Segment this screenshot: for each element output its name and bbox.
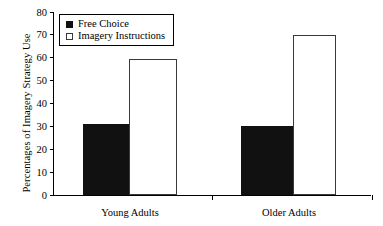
plot-area: 01020304050607080 Young AdultsOlder Adul… — [53, 13, 371, 196]
bar-older-adults-free-choice — [241, 126, 293, 195]
y-tick-mark — [50, 126, 54, 127]
legend-item-free-choice: Free Choice — [66, 18, 165, 30]
bar-chart-figure: Percentages of Imagery Strategy Use 0102… — [0, 0, 383, 226]
x-axis-label-young-adults: Young Adults — [101, 206, 159, 220]
y-axis-title: Percentages of Imagery Strategy Use — [18, 0, 36, 226]
y-tick-label: 60 — [37, 50, 48, 65]
y-tick-label: 40 — [37, 96, 48, 111]
y-tick-label: 20 — [37, 142, 48, 157]
legend-swatch-icon — [66, 21, 73, 28]
y-tick-mark — [50, 12, 54, 13]
y-tick-label: 50 — [37, 73, 48, 88]
y-tick-label: 10 — [37, 165, 48, 180]
y-tick-label: 30 — [37, 119, 48, 134]
y-tick-mark — [50, 149, 54, 150]
y-tick-label: 0 — [42, 188, 47, 203]
legend-item-imagery-instructions: Imagery Instructions — [66, 30, 165, 42]
bar-young-adults-imagery-instructions — [129, 59, 177, 195]
legend-label: Imagery Instructions — [78, 30, 165, 42]
legend-label: Free Choice — [78, 18, 129, 30]
y-tick-label: 80 — [37, 5, 48, 20]
x-tick-mark — [372, 195, 373, 200]
y-tick-mark — [50, 195, 54, 196]
bar-young-adults-free-choice — [83, 124, 129, 195]
y-tick-label: 70 — [37, 27, 48, 42]
y-tick-mark — [50, 57, 54, 58]
chart-legend: Free ChoiceImagery Instructions — [59, 14, 174, 46]
bar-older-adults-imagery-instructions — [293, 35, 336, 195]
y-tick-mark — [50, 172, 54, 173]
x-tick-mark — [212, 195, 213, 200]
y-tick-mark — [50, 103, 54, 104]
y-tick-mark — [50, 80, 54, 81]
y-tick-mark — [50, 34, 54, 35]
legend-swatch-icon — [66, 33, 73, 40]
x-axis-label-older-adults: Older Adults — [262, 206, 316, 220]
